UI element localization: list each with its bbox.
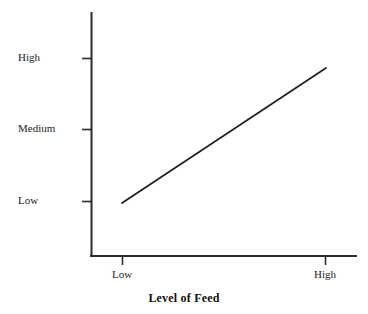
x-axis-title: Level of Feed (0, 291, 368, 306)
y-axis-tick-label-medium: Medium (18, 123, 55, 134)
data-series-line (122, 68, 326, 203)
chart-container: High Medium Low Low High Level of Feed (0, 0, 368, 314)
x-axis-tick-label-high: High (295, 269, 355, 280)
chart-plot-area (0, 0, 368, 314)
x-axis-tick-label-low: Low (92, 269, 152, 280)
y-axis-tick-label-high: High (18, 52, 40, 63)
y-axis-tick-label-low: Low (18, 195, 38, 206)
